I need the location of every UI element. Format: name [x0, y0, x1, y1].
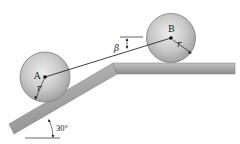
label-r-a: r: [37, 83, 42, 93]
arrowhead-icon: [52, 135, 55, 138]
arrowhead-icon: [126, 46, 129, 49]
label-beta: β: [113, 43, 119, 53]
mechanics-diagram: A r B r β 30°: [0, 0, 240, 144]
center-b-dot: [169, 36, 173, 40]
beta-angle-marker: [120, 37, 143, 49]
label-a: A: [33, 71, 41, 81]
label-incline-angle: 30°: [56, 123, 68, 133]
flat-surface: [113, 63, 235, 74]
label-r-b: r: [177, 39, 182, 49]
label-b: B: [168, 24, 175, 34]
center-a-dot: [43, 75, 47, 79]
arrowhead-icon: [48, 119, 51, 122]
arrowhead-icon: [126, 38, 129, 41]
